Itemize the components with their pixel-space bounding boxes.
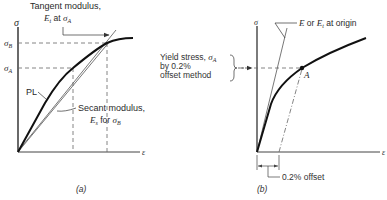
caption-a: (a) <box>76 184 87 194</box>
tangent-modulus-label: Tangent modulus, <box>30 1 101 11</box>
y-axis-label: σ <box>14 17 20 28</box>
offset-line <box>279 69 302 152</box>
secant-modulus-label: Secant modulus, <box>78 103 145 113</box>
yield-label-line3: offset method <box>160 70 212 80</box>
tangent-leader-arrow <box>63 27 109 35</box>
tangent-modulus-sublabel: Et at σA <box>43 13 71 24</box>
x-axis-label: ε <box>382 148 386 157</box>
stress-strain-curve <box>257 38 366 152</box>
point-a-label: A <box>303 70 310 80</box>
modulus-label: E or Et at origin <box>298 18 357 29</box>
caption-b: (b) <box>257 184 268 194</box>
offset-label: 0.2% offset <box>282 172 325 182</box>
y-axis-label: σ <box>254 18 259 27</box>
panel-a: σ ε σB σA Tangent modulus, Et at σA PL S… <box>4 1 146 194</box>
pl-leader <box>38 92 46 99</box>
stress-strain-figure: σ ε σB σA Tangent modulus, Et at σA PL S… <box>0 0 387 200</box>
offset-arrow-right <box>274 165 278 168</box>
pl-label: PL <box>26 87 37 97</box>
sigma-b-label: σB <box>4 38 12 49</box>
offset-arrow-left <box>258 165 262 168</box>
yield-brace <box>230 55 237 81</box>
secant-modulus-sublabel: Es for σB <box>89 115 121 126</box>
x-axis-label: ε <box>142 148 146 157</box>
panel-b: σ ε A E or Et at origin Yield stress, σA… <box>160 18 386 194</box>
offset-leader <box>268 166 280 177</box>
sigma-a-label: σA <box>4 63 12 74</box>
